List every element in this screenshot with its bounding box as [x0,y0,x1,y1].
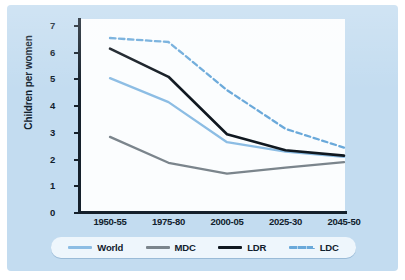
legend-label: LDC [320,242,339,253]
y-axis-tick-label: 3 [35,127,55,138]
y-axis-tick [74,105,78,107]
legend-label: World [97,242,123,253]
chart-legend: WorldMDCLDRLDC [51,237,356,258]
y-axis-tick [74,78,78,80]
figure-panel: Children per women 01234567 1950-551975-… [7,5,398,271]
y-axis-tick [74,212,78,214]
y-axis-tick-label: 0 [35,207,55,218]
legend-swatch-mdc-icon [146,246,170,249]
legend-label: MDC [175,242,196,253]
legend-swatch-ldc-icon [289,246,315,249]
y-axis-tick-label: 7 [35,20,55,31]
y-axis-tick-label: 1 [35,180,55,191]
y-axis-tick [74,132,78,134]
x-axis-tick-label: 1975-80 [139,216,199,227]
x-axis-tick-label: 2045-50 [314,216,374,227]
x-axis-tick-label: 2025-30 [256,216,316,227]
legend-item-mdc[interactable]: MDC [146,242,196,253]
y-axis-line [78,18,81,214]
y-axis-tick [74,25,78,27]
legend-swatch-ldr-icon [218,246,242,249]
legend-item-ldc[interactable]: LDC [289,242,339,253]
x-axis-tick-label: 1950-55 [80,216,140,227]
x-axis-tick-label: 2000-05 [197,216,257,227]
y-axis-tick-label: 6 [35,47,55,58]
y-axis-tick [74,185,78,187]
legend-item-ldr[interactable]: LDR [218,242,266,253]
y-axis-tick [74,159,78,161]
legend-item-world[interactable]: World [68,242,123,253]
y-axis-tick-label: 5 [35,73,55,84]
chart-series-canvas [7,5,398,271]
legend-swatch-world-icon [68,246,92,249]
series-line-ldr [110,49,344,156]
y-axis-tick-label: 4 [35,100,55,111]
y-axis-tick [74,52,78,54]
legend-label: LDR [247,242,266,253]
y-axis-tick-label: 2 [35,154,55,165]
x-axis-line [78,211,347,214]
